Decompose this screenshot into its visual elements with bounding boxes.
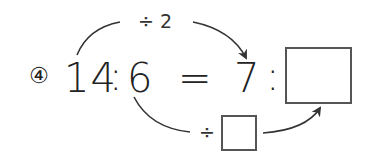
equals-sign: = bbox=[178, 58, 213, 98]
bottom-operator: ÷ bbox=[199, 123, 215, 142]
answer-box-divisor[interactable] bbox=[221, 115, 257, 151]
top-arc-left bbox=[77, 22, 120, 55]
top-arc-right-arrow bbox=[193, 22, 246, 58]
bottom-arc-right-arrow bbox=[263, 108, 320, 133]
left-ratio-b: 6 bbox=[127, 58, 153, 98]
answer-box-right-ratio[interactable] bbox=[285, 47, 352, 104]
problem-number: ④ bbox=[29, 65, 49, 87]
right-ratio-sep: : bbox=[266, 56, 280, 96]
bottom-arc-left bbox=[134, 97, 190, 132]
top-operation-label: ÷ 2 bbox=[138, 12, 172, 31]
right-ratio-a: 7 bbox=[234, 58, 260, 98]
left-ratio-sep: : bbox=[109, 56, 123, 96]
